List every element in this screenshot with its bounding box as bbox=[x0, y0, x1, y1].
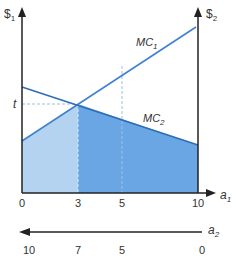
right-axis-label: $2 bbox=[206, 7, 218, 23]
mc1-label: MC1 bbox=[136, 36, 158, 51]
shaded-area-light bbox=[22, 104, 78, 193]
tick-a2-7: 7 bbox=[75, 244, 81, 256]
t-label: t bbox=[13, 97, 17, 111]
a2-label: a2 bbox=[208, 223, 220, 239]
tick-a1-3: 3 bbox=[75, 197, 81, 209]
tick-a1-5: 5 bbox=[119, 197, 125, 209]
left-axis-arrow-icon bbox=[18, 7, 26, 17]
x-axis-arrow-icon bbox=[206, 189, 216, 197]
tick-a1-10: 10 bbox=[192, 197, 204, 209]
mc2-label: MC2 bbox=[143, 112, 165, 127]
left-axis-label: $1 bbox=[4, 7, 16, 23]
shaded-area-dark bbox=[78, 104, 198, 193]
tick-a2-5: 5 bbox=[119, 244, 125, 256]
right-axis-arrow-icon bbox=[194, 7, 202, 17]
a1-label: a1 bbox=[220, 188, 231, 204]
tick-a2-10: 10 bbox=[23, 244, 35, 256]
tick-a2-0: 0 bbox=[199, 244, 205, 256]
marginal-cost-diagram: $1 $2 MC1 MC2 t a1 a2 0 3 5 10 10 7 5 0 bbox=[0, 0, 236, 266]
a2-axis-arrow-icon bbox=[19, 228, 30, 236]
tick-a1-0: 0 bbox=[19, 197, 25, 209]
